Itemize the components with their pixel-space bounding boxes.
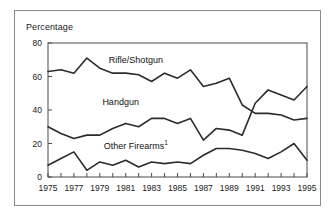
x-tick-label: 1989 xyxy=(216,183,242,193)
y-tick-label: 20 xyxy=(24,139,42,149)
series-line-rifle-shotgun xyxy=(48,58,307,120)
footnote-marker: 1 xyxy=(164,139,168,146)
y-tick-label: 40 xyxy=(24,105,42,115)
series-lines xyxy=(48,58,307,170)
y-tick-label: 0 xyxy=(24,172,42,182)
y-tick-label: 60 xyxy=(24,72,42,82)
y-tick-label: 80 xyxy=(24,38,42,48)
x-tick-label: 1979 xyxy=(87,183,113,193)
x-tick-label: 1981 xyxy=(113,183,139,193)
x-tick-label: 1983 xyxy=(139,183,165,193)
y-tick-marks xyxy=(48,43,52,177)
series-label-other-text: Other Firearms xyxy=(104,141,165,151)
x-tick-label: 1987 xyxy=(190,183,216,193)
chart-figure: Percentage 806040200 1975197719791981198… xyxy=(0,0,335,221)
x-tick-label: 1993 xyxy=(268,183,294,193)
series-line-other-firearms xyxy=(48,144,307,171)
x-tick-label: 1985 xyxy=(165,183,191,193)
series-label-handgun: Handgun xyxy=(102,97,139,107)
plot-border xyxy=(48,43,307,177)
x-tick-label: 1975 xyxy=(35,183,61,193)
series-label-rifle-shotgun: Rifle/Shotgun xyxy=(109,55,163,65)
series-label-other-firearms: Other Firearms1 xyxy=(104,141,168,151)
x-tick-label: 1991 xyxy=(242,183,268,193)
x-tick-label: 1977 xyxy=(61,183,87,193)
plot-area: 806040200 197519771979198119831985198719… xyxy=(0,0,335,221)
x-tick-label: 1995 xyxy=(294,183,320,193)
x-tick-marks xyxy=(48,173,307,177)
